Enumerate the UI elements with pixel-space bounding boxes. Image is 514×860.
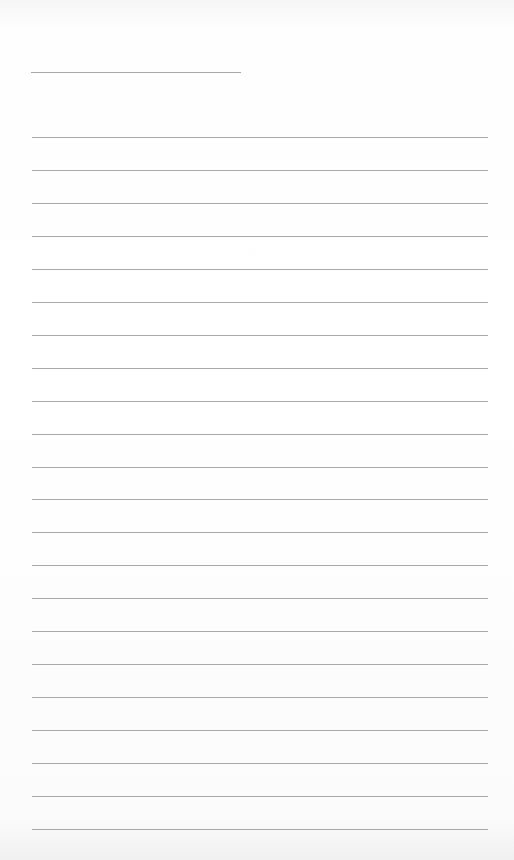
writing-line bbox=[32, 598, 488, 599]
writing-line bbox=[32, 467, 488, 468]
lined-paper-page bbox=[0, 0, 514, 860]
writing-line bbox=[32, 203, 488, 204]
writing-line bbox=[32, 499, 488, 500]
writing-line bbox=[32, 565, 488, 566]
header-line bbox=[31, 72, 241, 73]
writing-line bbox=[32, 763, 488, 764]
writing-line bbox=[32, 137, 488, 138]
writing-line bbox=[32, 401, 488, 402]
writing-line bbox=[32, 532, 488, 533]
writing-line bbox=[32, 664, 488, 665]
writing-line bbox=[32, 236, 488, 237]
writing-line bbox=[32, 697, 488, 698]
writing-line bbox=[32, 170, 488, 171]
writing-line bbox=[32, 631, 488, 632]
writing-line bbox=[32, 829, 488, 830]
writing-line bbox=[32, 796, 488, 797]
writing-line bbox=[32, 269, 488, 270]
writing-line bbox=[32, 730, 488, 731]
writing-line bbox=[32, 335, 488, 336]
writing-line bbox=[32, 302, 488, 303]
writing-line bbox=[32, 434, 488, 435]
writing-line bbox=[32, 368, 488, 369]
